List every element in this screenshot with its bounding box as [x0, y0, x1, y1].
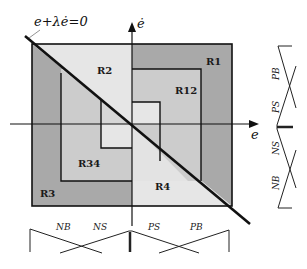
mf-e-pb: PB	[189, 222, 203, 232]
mf-edot-nb: NB	[271, 175, 281, 191]
inner-box-bottom-left	[101, 124, 132, 148]
mf-edot-ps: PS	[271, 101, 281, 114]
inner-box-top-right	[132, 102, 160, 124]
region-label-r34: R34	[78, 158, 100, 169]
edot-axis-arrow-icon	[128, 22, 136, 32]
leader-line	[29, 30, 40, 38]
e-axis-label: e	[251, 127, 259, 142]
mf-edot-ns: NS	[271, 141, 281, 156]
region-label-r1: R1	[206, 56, 221, 67]
mf-e-nb: NB	[55, 222, 71, 232]
region-label-r2: R2	[97, 65, 112, 76]
edot-axis-label: ė	[137, 16, 145, 31]
mf-e-ns: NS	[92, 222, 107, 232]
region-label-r3: R3	[40, 188, 55, 199]
region-label-r4: R4	[155, 181, 170, 192]
membership-functions-e	[30, 229, 229, 253]
region-label-r12: R12	[175, 85, 197, 96]
mf-e-ps: PS	[147, 222, 160, 232]
mf-edot-pb: PB	[271, 67, 281, 81]
switching-line-equation: e+λė=0	[34, 14, 88, 29]
phase-plane-diagram: e+λė=0 ė e R1 R2 R12 R34 R3 R4 NB NS PS …	[0, 0, 307, 269]
